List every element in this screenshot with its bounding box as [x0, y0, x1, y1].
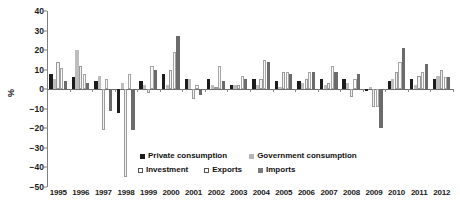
legend-item-private-consumption: Private consumption [140, 152, 227, 160]
x-axis-tick-labels: 1995199619971998199920002001200220032004… [47, 188, 453, 202]
x-axis-tick-label: 2011 [411, 188, 428, 197]
bar [222, 81, 225, 89]
bar-group [92, 11, 115, 187]
bar [176, 36, 179, 89]
bar [86, 83, 89, 89]
x-axis-tick-mark [227, 89, 228, 92]
x-axis-tick-label: 1996 [72, 188, 89, 197]
y-axis-tick-label: −10 [14, 105, 44, 114]
bar-group [47, 11, 70, 187]
bar [147, 89, 150, 93]
bar-group [70, 11, 93, 187]
bar [64, 81, 67, 89]
bar [244, 79, 247, 89]
y-axis-tick-label: 30 [14, 26, 44, 35]
bar [117, 89, 120, 112]
bar-group [385, 11, 408, 187]
x-axis-tick-label: 1995 [50, 188, 67, 197]
y-axis-tick-label: −20 [14, 124, 44, 133]
bar-chart: % 403020100−10−20−30−40−50 1995199619971… [0, 0, 460, 213]
y-axis-tick-label: 10 [14, 65, 44, 74]
bar [154, 70, 157, 90]
x-axis-tick-label: 2000 [163, 188, 180, 197]
x-axis-tick-mark [115, 89, 116, 92]
legend-swatch-icon [140, 154, 145, 159]
x-axis-tick-label: 2002 [208, 188, 225, 197]
y-axis-tick-label: −40 [14, 163, 44, 172]
bar [402, 48, 405, 89]
bar [365, 89, 368, 91]
bar [289, 74, 292, 90]
x-axis-tick-mark [70, 89, 71, 92]
legend-swatch-icon [204, 168, 209, 173]
bar [128, 74, 131, 90]
legend-label: Exports [212, 166, 242, 174]
x-axis-tick-mark [160, 89, 161, 92]
x-axis-tick-mark [318, 89, 319, 92]
legend-row-1: Private consumption Government consumpti… [138, 150, 378, 162]
legend-swatch-icon [249, 154, 254, 159]
legend-label: Government consumption [257, 152, 357, 160]
y-axis-tick-label: 40 [14, 7, 44, 16]
legend-swatch-icon [258, 168, 263, 173]
bar [425, 64, 428, 89]
x-axis-tick-label: 2010 [388, 188, 405, 197]
x-axis-tick-mark [273, 89, 274, 92]
x-axis-tick-mark [47, 89, 48, 92]
legend-label: Private consumption [148, 152, 227, 160]
bar [350, 89, 353, 97]
legend-label: Investment [146, 166, 188, 174]
x-axis-tick-mark [92, 89, 93, 92]
y-axis-tick-labels: 403020100−10−20−30−40−50 [14, 0, 44, 213]
x-axis-tick-mark [385, 89, 386, 92]
bar-group [408, 11, 431, 187]
legend-item-imports: Imports [258, 166, 295, 174]
y-axis-tick-label: 0 [14, 85, 44, 94]
x-axis-tick-mark [182, 89, 183, 92]
x-axis-tick-label: 2003 [230, 188, 247, 197]
legend-item-government-consumption: Government consumption [249, 152, 357, 160]
x-axis-tick-label: 2001 [185, 188, 202, 197]
bar [98, 76, 101, 90]
x-axis-tick-label: 2009 [366, 188, 383, 197]
bar [267, 62, 270, 89]
legend-row-2: Investment Exports Imports [138, 164, 378, 176]
x-axis-tick-mark [250, 89, 251, 92]
legend-swatch-icon [138, 168, 143, 173]
bar [192, 89, 195, 99]
x-axis-tick-mark [453, 89, 454, 92]
bar [188, 79, 191, 89]
bar [131, 89, 134, 130]
x-axis-tick-label: 2004 [253, 188, 270, 197]
legend-item-exports: Exports [204, 166, 242, 174]
x-axis-tick-mark [363, 89, 364, 92]
bar-group [115, 11, 138, 187]
y-axis-tick-label: −50 [14, 183, 44, 192]
x-axis-tick-mark [205, 89, 206, 92]
x-axis-tick-mark [408, 89, 409, 92]
x-axis-tick-label: 1997 [95, 188, 112, 197]
x-axis-tick-label: 2006 [298, 188, 315, 197]
chart-legend: Private consumption Government consumpti… [138, 150, 378, 176]
bar [357, 74, 360, 90]
bar [109, 89, 112, 111]
x-axis-tick-label: 2007 [320, 188, 337, 197]
x-axis-tick-label: 2012 [433, 188, 450, 197]
x-axis-tick-mark [295, 89, 296, 92]
bar-group [430, 11, 453, 187]
x-axis-tick-mark [340, 89, 341, 92]
bar [102, 89, 105, 130]
bar [334, 72, 337, 90]
x-axis-tick-label: 1999 [140, 188, 157, 197]
bar [124, 89, 127, 177]
y-axis-tick-label: −30 [14, 144, 44, 153]
bar [105, 79, 108, 89]
x-axis-tick-label: 2005 [275, 188, 292, 197]
bar [379, 89, 382, 128]
y-axis-tick-label: 20 [14, 46, 44, 55]
bar [199, 89, 202, 95]
legend-item-investment: Investment [138, 166, 188, 174]
x-axis-tick-label: 1998 [117, 188, 134, 197]
bar [447, 77, 450, 89]
x-axis-tick-mark [430, 89, 431, 92]
